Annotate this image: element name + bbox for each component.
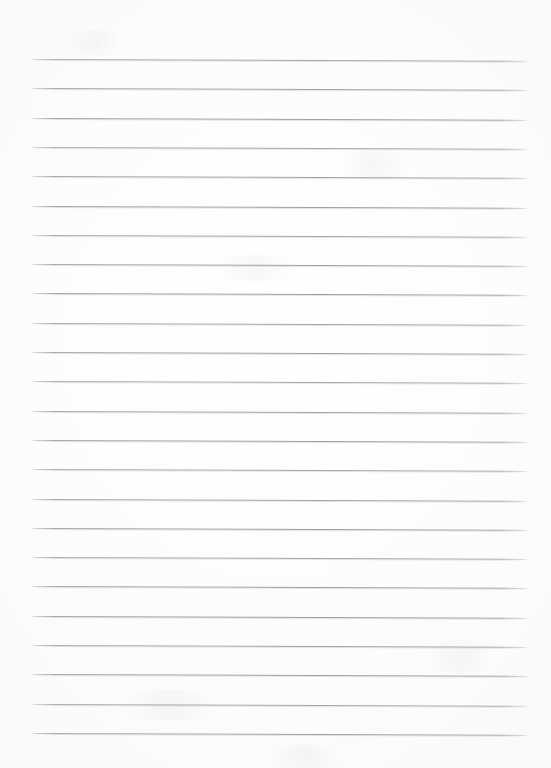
ruled-line [30, 352, 529, 355]
ruled-line [30, 59, 529, 62]
ruled-line [30, 733, 529, 736]
ruled-line [30, 499, 529, 502]
ruled-line [30, 381, 529, 384]
ruled-line [30, 88, 529, 91]
ruled-line [30, 616, 529, 619]
ruled-line [30, 411, 529, 414]
ruled-lines-group [0, 0, 551, 768]
ruled-line [30, 323, 529, 326]
ruled-line [30, 645, 529, 648]
ruled-line [30, 528, 529, 531]
ruled-line [30, 557, 529, 560]
paper-page [0, 0, 551, 768]
ruled-line [30, 704, 529, 707]
ruled-line [30, 440, 529, 443]
ruled-line [30, 264, 529, 267]
ruled-line [30, 293, 529, 296]
ruled-line [30, 674, 529, 677]
ruled-line [30, 469, 529, 472]
ruled-line [30, 235, 529, 238]
ruled-line [30, 147, 529, 150]
ruled-line [30, 586, 529, 589]
ruled-line [30, 176, 529, 179]
ruled-line [30, 206, 529, 209]
ruled-line [30, 118, 529, 121]
